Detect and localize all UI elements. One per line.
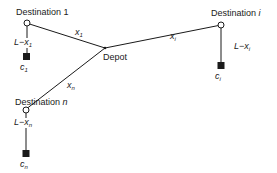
destination-i-node [218,22,224,28]
destination-n-label: Destination n [15,98,68,107]
edge-sub: 1 [80,32,83,38]
destination-n-name: Destination [15,97,60,107]
cost-label-n: cn [20,160,28,170]
edge-depot-dest-i [105,26,219,49]
destination-n-number: n [63,97,68,107]
cost-sub: i [220,76,221,82]
edge-label-xn: xn [67,81,75,91]
remaining-label-1: L−x1 [14,38,32,48]
cost-label-1: c1 [20,63,28,73]
remaining-prefix: L− [234,41,244,51]
edge-sub: i [175,36,176,42]
cost-label-i: ci [215,72,221,82]
destination-1-label: Destination 1 [16,8,69,17]
remaining-sub: n [29,122,32,128]
remaining-sub: i [249,46,250,52]
destination-i-name: Destination [211,8,256,18]
destination-i-label: Destination i [211,9,261,18]
cost-square-i [218,62,225,69]
depot-label: Depot [103,53,127,62]
destination-1-node [24,20,30,26]
edge-depot-dest-1 [30,24,106,48]
remaining-label-i: L−xi [234,42,250,52]
destination-1-number: 1 [64,7,69,17]
cost-square-1 [23,53,30,60]
depot-node [104,47,107,50]
destination-n-node [23,107,29,113]
remaining-label-n: L−xn [14,118,32,128]
edge-label-xi: xi [170,32,176,42]
cost-square-n [23,150,30,157]
remaining-sub: 1 [29,42,32,48]
destination-i-number: i [259,8,261,18]
destination-1-name: Destination [16,7,61,17]
cost-sub: 1 [25,67,28,73]
routing-diagram [0,0,277,173]
edge-sub: n [72,85,75,91]
cost-sub: n [25,164,28,170]
edge-label-x1: x1 [75,28,83,38]
remaining-prefix: L− [14,37,24,47]
remaining-prefix: L− [14,117,24,127]
